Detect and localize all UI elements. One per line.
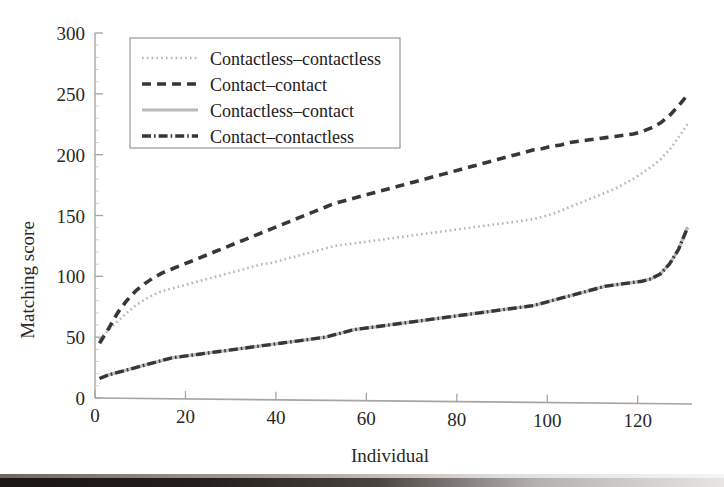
x-tick-label: 80 [447,409,466,430]
y-tick-label: 200 [57,145,86,166]
y-tick-label: 100 [57,266,86,287]
x-axis-title: Individual [351,445,429,466]
scan-edge-shadow [0,478,724,487]
y-axis-title: Matching score [17,221,38,339]
legend-label-contactless-contactless: Contactless–contactless [210,49,381,69]
y-tick-label: 50 [66,327,85,348]
x-tick-label: 60 [357,408,376,429]
y-tick-label: 150 [57,206,86,227]
x-tick-label: 40 [266,407,285,428]
y-tick-label: 300 [57,23,86,44]
legend-label-contact-contact: Contact–contact [210,75,327,95]
legend-label-contactless-contact: Contactless–contact [210,101,354,121]
x-tick-label: 100 [533,410,562,431]
chart-legend: Contactless–contactlessContact–contactCo… [130,38,400,148]
matching-score-line-chart: 050100150200250300 020406080100120 Match… [0,0,724,487]
y-tick-label: 250 [57,84,86,105]
legend-label-contact-contactless: Contact–contactless [210,127,354,147]
x-tick-label: 20 [176,406,195,427]
x-tick-label: 0 [90,405,100,426]
x-tick-label: 120 [623,410,652,431]
figure-container: 050100150200250300 020406080100120 Match… [0,0,724,487]
y-tick-label: 0 [76,388,86,409]
